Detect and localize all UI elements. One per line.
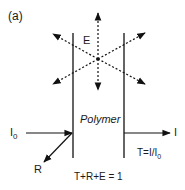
- emission-label: E: [83, 35, 90, 46]
- emission-arrows: [53, 13, 145, 90]
- material-label: Polymer: [80, 114, 120, 125]
- incident-label: I0: [10, 127, 18, 141]
- transmittance-equation: T=I/I0: [137, 148, 161, 160]
- conservation-equation: T+R+E = 1: [74, 172, 123, 182]
- polymer-optics-diagram: [0, 0, 185, 190]
- reflected-label: R: [34, 164, 42, 175]
- transmitted-label: I: [174, 127, 177, 138]
- reflected-arrow: [44, 133, 72, 162]
- panel-label: (a): [8, 10, 23, 22]
